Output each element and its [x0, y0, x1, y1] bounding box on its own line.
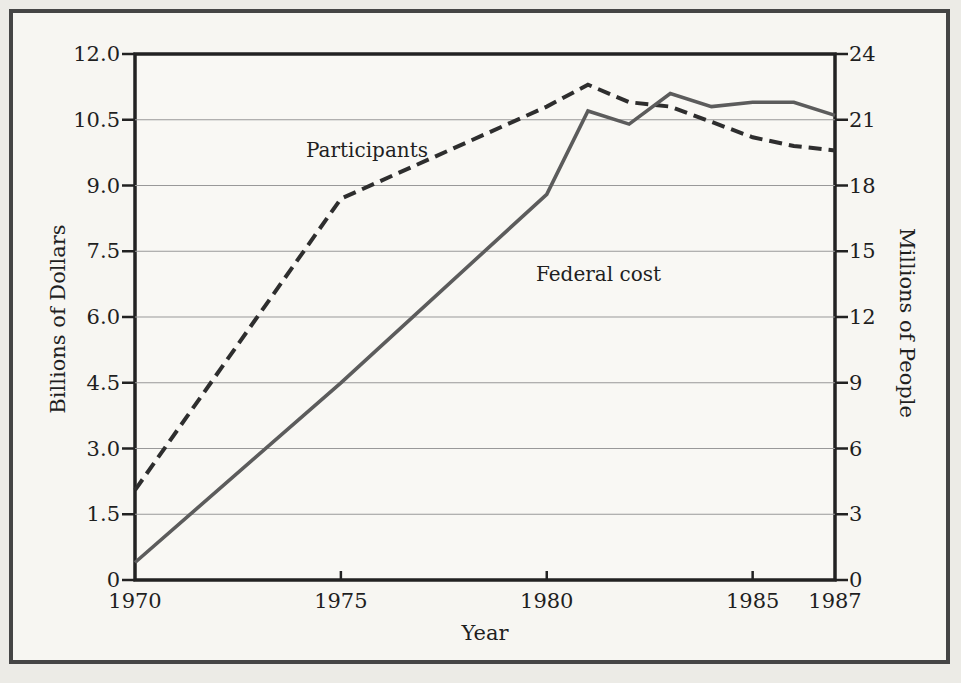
paper-background: Billions of Dollars Millions of People Y…	[0, 0, 961, 683]
x-tick-label: 1987	[795, 588, 875, 614]
labels-layer: Billions of Dollars Millions of People Y…	[0, 0, 961, 683]
y-left-tick-label: 1.5	[46, 501, 120, 527]
x-axis-title: Year	[415, 620, 555, 646]
x-tick-label: 1970	[95, 588, 175, 614]
y-left-tick-label: 6.0	[46, 304, 120, 330]
y-right-tick-label: 12	[849, 304, 923, 330]
y-left-tick-label: 9.0	[46, 173, 120, 199]
page: { "figure": { "x_axis_title": "Year", "l…	[0, 0, 961, 683]
y-right-tick-label: 3	[849, 501, 923, 527]
y-left-tick-label: 10.5	[46, 107, 120, 133]
y-left-tick-label: 7.5	[46, 238, 120, 264]
federal-cost-series-label: Federal cost	[536, 262, 661, 286]
y-left-tick-label: 4.5	[46, 370, 120, 396]
participants-series-label: Participants	[306, 138, 428, 162]
y-right-tick-label: 15	[849, 238, 923, 264]
x-tick-label: 1975	[301, 588, 381, 614]
y-right-tick-label: 9	[849, 370, 923, 396]
y-right-tick-label: 21	[849, 107, 923, 133]
x-tick-label: 1985	[713, 588, 793, 614]
y-left-tick-label: 3.0	[46, 436, 120, 462]
y-left-tick-label: 12.0	[46, 41, 120, 67]
y-right-tick-label: 18	[849, 173, 923, 199]
y-right-tick-label: 24	[849, 41, 923, 67]
y-right-tick-label: 6	[849, 436, 923, 462]
x-tick-label: 1980	[507, 588, 587, 614]
